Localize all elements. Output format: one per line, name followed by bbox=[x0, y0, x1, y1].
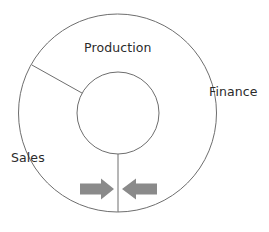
segment-label-sales: Sales bbox=[11, 152, 45, 165]
segment-label-finance: Finance bbox=[209, 86, 258, 99]
inner-circle bbox=[77, 72, 159, 154]
segment-label-production: Production bbox=[84, 42, 152, 55]
arrow-left-icon bbox=[80, 179, 114, 200]
diagram-svg bbox=[0, 0, 269, 232]
divider-upper-left bbox=[32, 65, 82, 93]
arrow-right-icon bbox=[122, 179, 157, 200]
diagram-canvas: Production Finance Sales bbox=[0, 0, 269, 232]
